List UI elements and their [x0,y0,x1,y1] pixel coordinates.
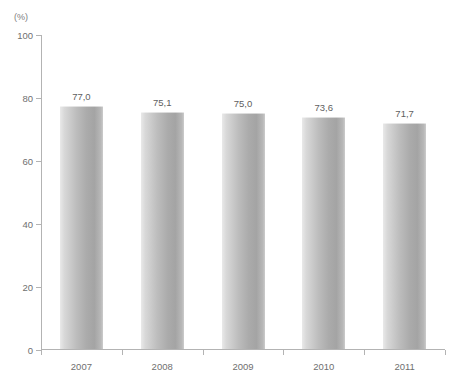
x-axis-category-label: 2009 [232,361,253,372]
x-axis-category-label: 2011 [394,361,414,372]
y-axis-tick-label: 80 [22,93,33,104]
bar-value-label: 77,0 [72,91,91,102]
y-axis-tick-label: 40 [22,219,33,230]
y-axis-tick [36,35,41,36]
bar-value-label: 73,6 [315,102,334,113]
x-axis-tick [283,350,284,355]
bar [222,113,265,349]
x-axis-tick [203,350,204,355]
bar-chart: (%) 020406080100 77,075,175,073,671,7 20… [0,0,461,391]
y-axis-tick [36,98,41,99]
y-axis-tick-label: 100 [17,30,33,41]
x-axis-category-label: 2008 [152,361,173,372]
y-axis-unit-label: (%) [14,12,28,22]
x-axis-line [41,349,445,350]
bar-value-label: 75,1 [153,97,172,108]
y-axis-tick [36,224,41,225]
x-axis-category-label: 2007 [71,361,92,372]
y-axis-line [41,35,42,350]
y-axis-tick [36,287,41,288]
x-axis-tick [364,350,365,355]
x-axis-tick [41,350,42,355]
bar [60,106,103,349]
y-axis-tick-label: 60 [22,156,33,167]
bar-value-label: 71,7 [395,108,414,119]
plot-area: 020406080100 77,075,175,073,671,7 200720… [41,35,445,350]
bar [141,112,184,349]
y-axis-tick-label: 20 [22,282,33,293]
x-axis-category-label: 2010 [313,361,334,372]
bar-value-label: 75,0 [234,98,253,109]
bar [302,117,345,349]
y-axis-tick [36,161,41,162]
bar [383,123,426,349]
x-axis-tick [122,350,123,355]
x-axis-tick [445,350,446,355]
y-axis-tick-label: 0 [28,345,33,356]
